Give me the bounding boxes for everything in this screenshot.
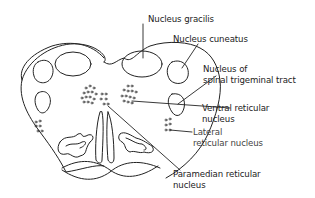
label-nucleus-gracilis: Nucleus gracilis [148, 14, 214, 25]
pyramid-wave-1 [62, 161, 158, 176]
cuneatus-left [33, 60, 53, 83]
olive-right [119, 133, 154, 153]
label-paramedian-reticular: Paramedian reticular nucleus [173, 169, 261, 190]
medulla-cross-section-diagram: Nucleus gracilis Nucleus cuneatus Nucleu… [0, 0, 315, 198]
cuneatus-right [167, 61, 188, 84]
section-drawing [0, 0, 315, 198]
label-spinal-trigeminal: Nucleus of spinal trigeminal tract [203, 64, 296, 85]
olive-left [58, 134, 93, 158]
paramedian-column-right [107, 112, 114, 163]
gracilis-right [122, 51, 162, 77]
gracilis-left [55, 52, 91, 76]
label-ventral-reticular: Ventral reticular nucleus [202, 103, 269, 124]
outer-outline [21, 42, 220, 178]
pyramid-wave-2 [62, 162, 160, 179]
label-nucleus-cuneatus: Nucleus cuneatus [173, 34, 248, 45]
paramedian-column-left [96, 112, 104, 163]
trigeminal-left [35, 91, 50, 112]
label-lateral-reticular: Lateral reticular nucleus [193, 127, 263, 148]
